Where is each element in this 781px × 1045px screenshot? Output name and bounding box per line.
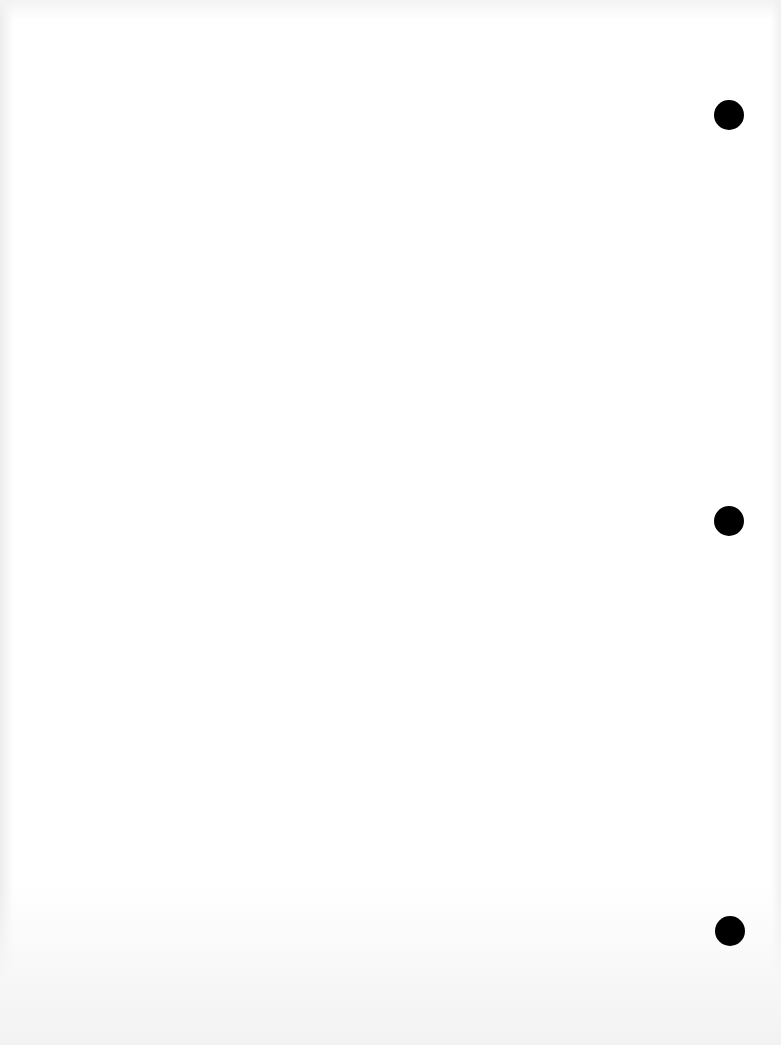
punch-hole-middle (714, 506, 744, 536)
blank-document-page (0, 0, 781, 1045)
scan-edge-shadow-bottom (0, 885, 781, 1045)
punch-hole-top (714, 100, 744, 130)
punch-hole-bottom (715, 916, 745, 946)
scan-edge-shadow-top (0, 0, 781, 20)
